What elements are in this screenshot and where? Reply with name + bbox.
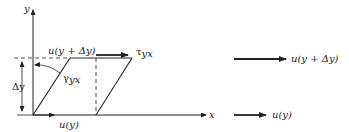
velocity-bottom-label: u(y) <box>272 109 292 120</box>
y-axis: y <box>23 3 33 115</box>
delta-y-dimension: Δy <box>12 62 33 115</box>
y-axis-label: y <box>23 3 30 14</box>
delta-y-label: Δy <box>12 81 25 92</box>
bottom-velocity: u(y) <box>33 115 79 130</box>
top-velocity-label: u(y + Δy) <box>48 45 96 56</box>
x-axis-label: x <box>209 109 215 120</box>
velocity-top-label: u(y + Δy) <box>291 53 339 64</box>
shear-stress: τyx <box>96 46 153 59</box>
tau-label: τyx <box>136 46 153 59</box>
velocity-profile: u(y + Δy) u(y) <box>234 53 339 120</box>
shear-deformation-diagram: y x Δy γyx u(y + Δy) τyx u(y) u(y + <box>0 0 349 132</box>
bottom-velocity-label: u(y) <box>59 119 79 130</box>
gamma-label: γyx <box>63 72 81 85</box>
shear-angle: γyx <box>35 65 81 85</box>
